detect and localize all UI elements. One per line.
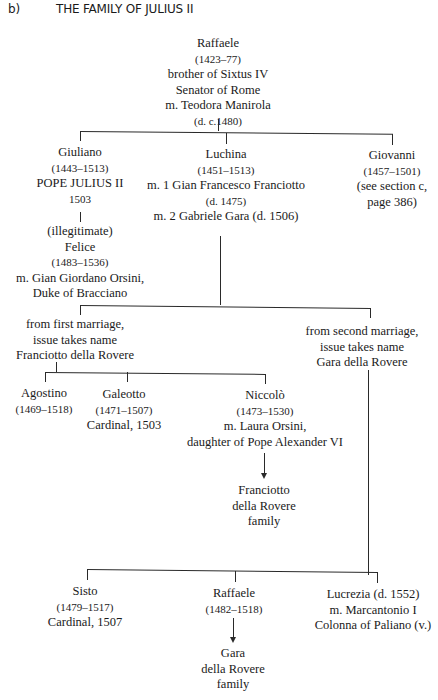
person-year: 1503 [37, 192, 124, 208]
cross-reference: page 386) [357, 195, 427, 211]
person-name: Raffaele [206, 586, 263, 602]
node-sisto: Sisto (1479–1517) Cardinal, 1507 [48, 584, 122, 631]
cross-reference: (see section c, [357, 179, 427, 195]
family-label: family [201, 677, 265, 693]
arrow-down-icon [230, 637, 236, 643]
person-spouse: m. Laura Orsini, [187, 419, 343, 435]
person-name: Agostino [16, 386, 73, 402]
person-qualifier: (illegitimate) [16, 224, 144, 240]
connector-line [218, 119, 219, 131]
person-title: Cardinal, 1507 [48, 615, 122, 631]
person-spouse: m. Marcantonio I [315, 603, 432, 619]
descent-arrow-line [264, 453, 265, 473]
connector-line [235, 571, 236, 582]
connector-line [127, 372, 128, 382]
section-label: b) [8, 2, 20, 16]
family-label: della Rovere [201, 662, 265, 678]
connector-line [220, 236, 221, 305]
node-raffaele-junior: Raffaele (1482–1518) [206, 586, 263, 617]
marriage-1: m. 1 Gian Francesco Franciotto [147, 178, 305, 194]
connector-line [80, 212, 81, 222]
person-dates: (1473–1530) [187, 404, 343, 420]
family-label: della Rovere [232, 499, 296, 515]
marriage-1-dates: (d. 1475) [147, 194, 305, 210]
branch-label: issue takes name [16, 333, 134, 349]
branch-label: issue takes name [306, 340, 419, 356]
connector-line [226, 133, 227, 144]
diagram-title: THE FAMILY OF JULIUS II [56, 2, 193, 16]
person-dates: (1469–1518) [16, 402, 73, 418]
family-label: Franciotto [232, 483, 296, 499]
person-dates: (1451–1513) [147, 163, 305, 179]
person-spouse: m. Gian Giordano Orsini, [16, 271, 144, 287]
family-label: family [232, 514, 296, 530]
person-dates: (1471–1507) [87, 403, 161, 419]
branch-label: Gara della Rovere [306, 355, 419, 371]
node-felice: (illegitimate) Felice (1483–1536) m. Gia… [16, 224, 144, 302]
node-raffaele-senior: Raffaele (1423–77) brother of Sixtus IV … [165, 36, 270, 129]
person-dates: (1482–1518) [206, 602, 263, 618]
node-second-marriage-issue: from second marriage, issue takes name G… [306, 324, 419, 371]
person-name: Lucrezia (d. 1552) [315, 587, 432, 603]
node-galeotto: Galeotto (1471–1507) Cardinal, 1503 [87, 387, 161, 434]
person-name: Felice [16, 240, 144, 256]
node-lucrezia: Lucrezia (d. 1552) m. Marcantonio I Colo… [315, 587, 432, 634]
person-dates: (1483–1536) [16, 255, 144, 271]
person-dates: (1423–77) [165, 52, 270, 68]
connector-line [368, 370, 369, 575]
connector-line [80, 305, 81, 315]
node-giovanni: Giovanni (1457–1501) (see section c, pag… [357, 148, 427, 210]
marriage-2: m. 2 Gabriele Gara (d. 1506) [147, 209, 305, 225]
person-name: Niccolò [187, 388, 343, 404]
branch-label: from second marriage, [306, 324, 419, 340]
node-franciotto-family: Franciotto della Rovere family [232, 483, 296, 530]
person-spouse: m. Teodora Manirola [165, 98, 270, 114]
person-dates: (1457–1501) [357, 164, 427, 180]
node-agostino: Agostino (1469–1518) [16, 386, 73, 417]
node-gara-family: Gara della Rovere family [201, 646, 265, 693]
branch-label: Franciotto della Rovere [16, 348, 134, 364]
person-title: POPE JULIUS II [37, 176, 124, 192]
person-dates: (1479–1517) [48, 600, 122, 616]
person-spouse: Colonna of Paliano (v.) [315, 618, 432, 634]
family-tree-diagram: b) THE FAMILY OF JULIUS II Raffaele (142… [0, 0, 438, 700]
connector-line [45, 372, 46, 382]
node-first-marriage-issue: from first marriage, issue takes name Fr… [16, 317, 134, 364]
connector-line [377, 572, 378, 583]
person-title: Cardinal, 1503 [87, 418, 161, 434]
person-dates: (1443–1513) [37, 161, 124, 177]
person-note: Senator of Rome [165, 83, 270, 99]
connector-line [87, 569, 377, 573]
family-label: Gara [201, 646, 265, 662]
connector-line [56, 362, 57, 372]
connector-line [80, 131, 393, 135]
person-name: Sisto [48, 584, 122, 600]
person-name: Luchina [147, 147, 305, 163]
branch-label: from first marriage, [16, 317, 134, 333]
connector-line [370, 308, 371, 318]
person-name: Galeotto [87, 387, 161, 403]
person-note: brother of Sixtus IV [165, 67, 270, 83]
node-giuliano: Giuliano (1443–1513) POPE JULIUS II 1503 [37, 145, 124, 207]
connector-line [87, 569, 88, 580]
connector-line [80, 305, 371, 309]
spouse-title: Duke of Bracciano [16, 286, 144, 302]
person-name: Raffaele [165, 36, 270, 52]
spouse-note: daughter of Pope Alexander VI [187, 435, 343, 451]
connector-line [265, 374, 266, 384]
node-luchina: Luchina (1451–1513) m. 1 Gian Francesco … [147, 147, 305, 225]
node-niccolo: Niccolò (1473–1530) m. Laura Orsini, dau… [187, 388, 343, 450]
arrow-down-icon [261, 473, 267, 479]
connector-line [45, 372, 265, 375]
descent-arrow-line [233, 618, 234, 638]
connector-line [392, 134, 393, 145]
person-name: Giuliano [37, 145, 124, 161]
connector-line [80, 131, 81, 141]
person-name: Giovanni [357, 148, 427, 164]
